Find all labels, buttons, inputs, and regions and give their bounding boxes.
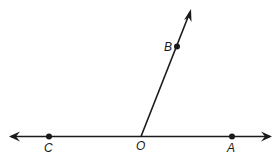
point-b [174,44,180,50]
angle-diagram: C O A B [0,0,279,160]
point-c [46,134,52,140]
label-b: B [164,40,172,54]
label-c: C [44,141,53,155]
ray-arrowhead-icon [184,9,192,22]
label-a: A [226,141,235,155]
ray-ob [141,9,192,137]
label-o: O [136,139,145,153]
point-a [229,134,235,140]
